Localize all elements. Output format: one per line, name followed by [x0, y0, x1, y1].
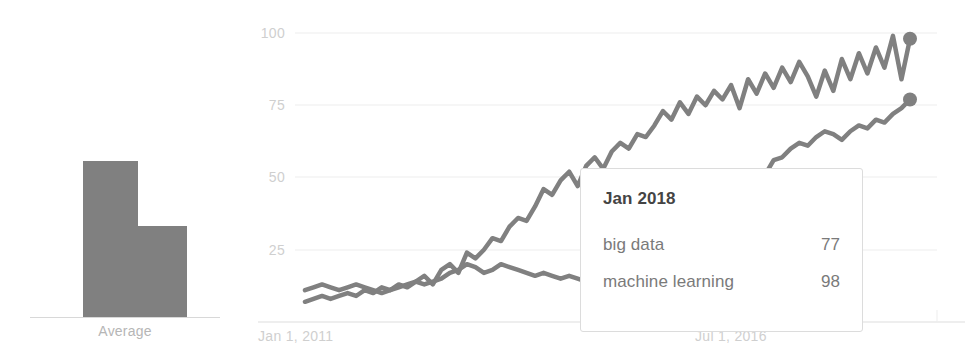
tooltip-row-machine-learning: machine learning 98 [603, 272, 840, 292]
tooltip-series-value: 98 [821, 272, 840, 292]
tooltip-series-label: big data [603, 235, 664, 255]
trends-chart-screenshot: Average 100 75 50 25 [0, 0, 965, 361]
tooltip-row-big-data: big data 77 [603, 235, 840, 255]
average-axis-line [30, 317, 220, 318]
tooltip-series-label: machine learning [603, 272, 734, 292]
y-tick-75: 75 [245, 97, 285, 113]
y-tick-25: 25 [245, 242, 285, 258]
average-bar-chart: Average [0, 0, 250, 361]
average-bar-machine-learning[interactable] [138, 226, 187, 318]
x-tick-start: Jan 1, 2011 [258, 328, 333, 344]
chart-tooltip[interactable]: Jan 2018 big data 77 machine learning 98 [580, 168, 863, 332]
tooltip-date-title: Jan 2018 [603, 189, 840, 209]
endpoint-marker-machine-learning[interactable] [903, 32, 917, 46]
endpoint-marker-big-data[interactable] [903, 92, 917, 106]
tooltip-series-value: 77 [821, 235, 840, 255]
average-axis-label: Average [0, 323, 250, 339]
y-tick-50: 50 [245, 169, 285, 185]
y-tick-100: 100 [245, 25, 285, 41]
average-bar-big-data[interactable] [83, 161, 138, 317]
